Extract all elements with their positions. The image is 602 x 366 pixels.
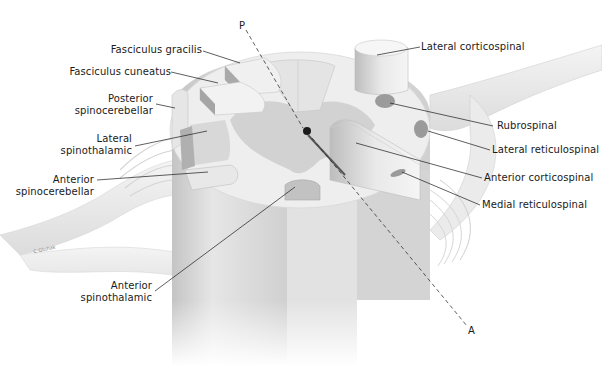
label-fasciculus-cuneatus: Fasciculus cuneatus [69, 66, 171, 78]
label-medial-reticulospinal: Medial reticulospinal [482, 199, 587, 211]
label-rubrospinal: Rubrospinal [497, 120, 557, 132]
posterior-label: P [239, 20, 245, 31]
label-anterior-spinothalamic: Anterior spinothalamic [81, 280, 152, 304]
anterior-label: A [468, 325, 475, 336]
label-fasciculus-gracilis: Fasciculus gracilis [111, 44, 202, 56]
label-anterior-spinocerebellar: Anterior spinocerebellar [16, 174, 94, 198]
label-lateral-reticulospinal: Lateral reticulospinal [492, 144, 599, 156]
label-lateral-spinothalamic: Lateral spinothalamic [61, 133, 132, 157]
spinal-cord-diagram: P A Fasciculus gracilis Fasciculus cunea… [0, 0, 602, 366]
label-posterior-spinocerebellar: Posterior spinocerebellar [75, 93, 153, 117]
label-lateral-corticospinal: Lateral corticospinal [421, 41, 525, 53]
label-anterior-corticospinal: Anterior corticospinal [484, 172, 593, 184]
